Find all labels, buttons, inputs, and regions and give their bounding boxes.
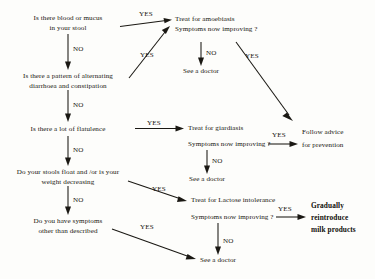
q1-line2: in your stool	[50, 24, 87, 32]
giardiasis-line2: Symptoms now improving ?	[188, 140, 271, 148]
milk-line3: milk products	[311, 225, 356, 234]
node-question-alternating-pattern: Is there a pattern of alternating diarrh…	[23, 72, 113, 90]
label-yes-giardia-improving: YES	[272, 131, 286, 139]
q2-line2: diarrhoea and constipation	[29, 82, 107, 90]
label-no-q1: NO	[73, 45, 84, 53]
see-doctor-2: See a doctor	[189, 175, 226, 183]
label-no-q4: NO	[73, 196, 84, 204]
node-outcome-prevention: Follow advice for prevention	[302, 128, 344, 149]
q5-line2: other than described	[38, 227, 97, 235]
prevention-line1: Follow advice	[302, 128, 343, 136]
edge-q1-no	[65, 34, 71, 70]
node-outcome-reintroduce-milk: Gradually reintroduce milk products	[311, 201, 356, 234]
edge-q1-yes	[120, 18, 172, 27]
amoebiasis-line1: Treat for amoebiasis	[175, 15, 235, 23]
edge-lactose-yes	[276, 214, 306, 220]
label-yes-amoeba-improving: YES	[245, 52, 259, 60]
edge-q2-no	[65, 90, 71, 122]
node-outcome-see-doctor-3: See a doctor	[200, 256, 237, 264]
flowchart-page: Is there blood or mucus in your stool Is…	[0, 0, 375, 279]
milk-line2: reintroduce	[311, 213, 349, 222]
label-no-amoeba: NO	[206, 49, 217, 57]
q3-line1: Is there a lot of flatulence	[31, 125, 106, 133]
q1-line1: Is there blood or mucus	[34, 14, 103, 22]
label-yes-q4: YES	[152, 185, 166, 193]
edge-giardiasis-yes	[268, 141, 298, 147]
label-no-giardia: NO	[212, 157, 223, 165]
lactose-line2: Symptoms now improving ?	[191, 213, 274, 221]
node-treat-lactose-intolerance: Treat for Lactose intolerance Symptoms n…	[191, 196, 275, 221]
edge-labels-group: YES NO YES NO YES NO YES NO NO YES YES N…	[73, 10, 292, 245]
edge-giardiasis-no	[204, 150, 210, 174]
edge-q3-no	[65, 136, 71, 166]
flowchart-canvas: Is there blood or mucus in your stool Is…	[0, 0, 375, 279]
label-yes-q3: YES	[147, 119, 161, 127]
node-question-blood-mucus: Is there blood or mucus in your stool	[34, 14, 103, 32]
milk-line1: Gradually	[311, 201, 344, 210]
see-doctor-1: See a doctor	[183, 67, 220, 75]
label-yes-lactose-improving: YES	[278, 205, 292, 213]
node-question-flatulence: Is there a lot of flatulence	[31, 125, 106, 133]
label-yes-q5: YES	[140, 223, 154, 231]
node-question-other-symptoms: Do you have symptoms other than describe…	[34, 217, 103, 235]
q4-line1: Do your stools float and /or is your	[17, 168, 120, 176]
amoebiasis-line2: Symptoms now improving ?	[175, 25, 258, 33]
label-no-q3: NO	[73, 146, 84, 154]
node-outcome-see-doctor-1: See a doctor	[183, 67, 220, 75]
edge-lactose-no	[215, 223, 221, 255]
q4-line2: weight decreasing	[42, 178, 95, 186]
edge-amoebiasis-no	[198, 42, 204, 66]
edge-q5-yes	[112, 229, 196, 260]
node-treat-amoebiasis: Treat for amoebiasis Symptoms now improv…	[175, 15, 258, 33]
label-no-lactose: NO	[223, 237, 234, 245]
node-treat-giardiasis: Treat for giardiasis Symptoms now improv…	[188, 124, 271, 148]
q5-line1: Do you have symptoms	[34, 217, 103, 225]
giardiasis-line1: Treat for giardiasis	[188, 124, 243, 132]
label-yes-amoeba-loop: YES	[140, 51, 154, 59]
edge-q4-no	[65, 186, 71, 215]
node-question-stools-float: Do your stools float and /or is your wei…	[17, 168, 120, 186]
see-doctor-3: See a doctor	[200, 256, 237, 264]
label-no-q2: NO	[73, 101, 84, 109]
label-yes-q1: YES	[139, 10, 153, 18]
q2-line1: Is there a pattern of alternating	[23, 72, 113, 80]
node-outcome-see-doctor-2: See a doctor	[189, 175, 226, 183]
prevention-line2: for prevention	[302, 141, 344, 149]
lactose-line1: Treat for Lactose intolerance	[191, 196, 275, 204]
